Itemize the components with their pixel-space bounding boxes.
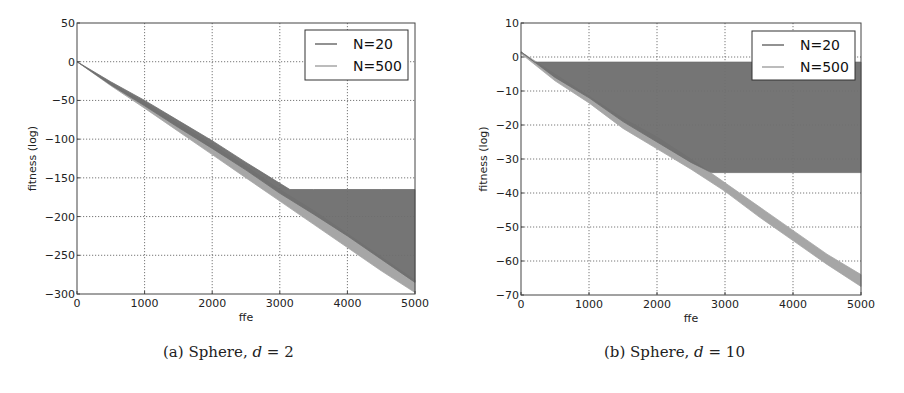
y-tick-label: −40: [496, 187, 519, 200]
x-tick-label: 2000: [198, 297, 226, 310]
caption-a-label: (a): [163, 343, 184, 361]
y-tick-label: −100: [45, 133, 75, 146]
y-tick-label: −70: [496, 289, 519, 302]
x-tick-label: 3000: [266, 297, 294, 310]
plot-sphere-d10: 010002000300040005000100−10−20−30−40−50−…: [477, 17, 875, 325]
plot-sphere-d2: 010002000300040005000500−50−100−150−200−…: [26, 17, 429, 324]
legend: N=20N=500: [752, 31, 855, 80]
caption-b: (b) Sphere, d = 10: [604, 343, 745, 361]
y-tick-labels: 100−10−20−30−40−50−60−70: [496, 17, 524, 302]
legend: N=20N=500: [305, 30, 408, 80]
y-tick-label: 50: [61, 17, 75, 30]
y-tick-label: −20: [496, 119, 519, 132]
x-tick-label: 1000: [131, 297, 159, 310]
y-tick-label: −300: [45, 288, 75, 301]
caption-a: (a) Sphere, d = 2: [163, 343, 294, 361]
legend-entry-label: N=500: [800, 59, 849, 75]
x-tick-label: 4000: [333, 297, 361, 310]
y-tick-label: 10: [505, 17, 519, 30]
x-tick-label: 5000: [847, 298, 875, 311]
y-tick-label: −200: [45, 211, 75, 224]
x-axis-label: ffe: [684, 312, 699, 325]
legend-entry-label: N=500: [353, 58, 402, 74]
legend-entry-label: N=20: [353, 36, 393, 52]
caption-a-eq: = 2: [267, 343, 294, 361]
x-tick-label: 2000: [643, 298, 671, 311]
figure-canvas: 010002000300040005000500−50−100−150−200−…: [0, 0, 904, 393]
caption-b-var: d: [694, 343, 704, 361]
y-tick-label: 0: [68, 56, 75, 69]
caption-b-label: (b): [604, 343, 625, 361]
y-tick-label: −150: [45, 172, 75, 185]
y-tick-label: −30: [496, 153, 519, 166]
y-tick-label: 0: [512, 51, 519, 64]
y-tick-label: −50: [52, 94, 75, 107]
y-axis-label: fitness (log): [26, 126, 39, 191]
caption-a-func: Sphere,: [188, 343, 247, 361]
y-tick-label: −50: [496, 221, 519, 234]
legend-entry-label: N=20: [800, 37, 840, 53]
x-tick-label: 4000: [779, 298, 807, 311]
x-tick-label: 5000: [401, 297, 429, 310]
x-axis-label: ffe: [239, 311, 254, 324]
y-tick-labels: 500−50−100−150−200−250−300: [45, 17, 80, 301]
caption-b-func: Sphere,: [630, 343, 689, 361]
caption-a-var: d: [252, 343, 262, 361]
y-tick-label: −10: [496, 85, 519, 98]
y-axis-label: fitness (log): [477, 126, 490, 191]
y-tick-label: −60: [496, 255, 519, 268]
y-tick-label: −250: [45, 249, 75, 262]
x-tick-label: 1000: [575, 298, 603, 311]
x-tick-label: 3000: [711, 298, 739, 311]
caption-b-eq: = 10: [709, 343, 745, 361]
